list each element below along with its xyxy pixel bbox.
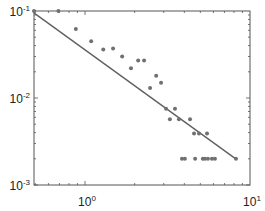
x-axis-tick-labels: 100101 <box>78 194 261 209</box>
data-point <box>192 132 196 136</box>
tick-label: 10-2 <box>10 91 31 106</box>
data-point <box>142 58 146 62</box>
data-point <box>173 107 177 111</box>
data-point <box>154 74 158 78</box>
data-point <box>164 107 168 111</box>
data-point <box>159 81 163 85</box>
data-point <box>129 66 133 70</box>
data-point <box>101 48 105 52</box>
data-point <box>89 39 93 43</box>
data-point <box>206 157 210 161</box>
tick-label: 101 <box>243 194 261 209</box>
tick-label: 100 <box>78 194 96 209</box>
data-point <box>32 9 36 13</box>
data-point <box>120 54 124 58</box>
data-point <box>213 157 217 161</box>
data-point <box>193 157 197 161</box>
data-point <box>177 117 181 121</box>
tick-label: 10-1 <box>10 4 31 19</box>
tick-label: 10-3 <box>10 178 31 193</box>
y-axis-tick-labels: 10-110-210-3 <box>10 4 31 193</box>
data-point <box>136 58 140 62</box>
data-point <box>111 47 115 51</box>
data-point <box>197 132 201 136</box>
regression-line <box>34 13 236 159</box>
data-point <box>56 9 60 13</box>
data-point <box>168 117 172 121</box>
data-point <box>234 157 238 161</box>
data-point <box>74 27 78 31</box>
data-point <box>148 86 152 90</box>
loglog-chart: 100101 10-110-210-3 <box>0 0 265 211</box>
data-point <box>188 117 192 121</box>
data-point <box>205 132 209 136</box>
fit-line <box>34 13 236 159</box>
data-point <box>183 157 187 161</box>
